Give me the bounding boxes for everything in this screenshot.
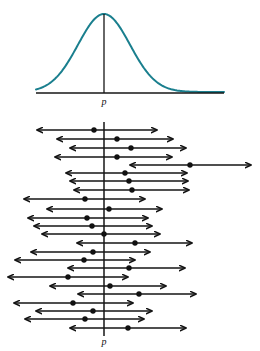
sample-proportion-dot <box>126 265 131 270</box>
parameter-label-top: p <box>101 96 107 107</box>
sample-proportion-dot <box>136 291 141 296</box>
normal-distribution-curve <box>36 14 224 92</box>
sample-proportion-dot <box>65 274 70 279</box>
sample-proportion-dot <box>90 308 95 313</box>
sample-proportion-dot <box>91 127 96 132</box>
sample-proportion-dot <box>114 154 119 159</box>
sample-proportion-dot <box>84 215 89 220</box>
interval-list <box>8 127 251 330</box>
sample-proportion-dot <box>125 325 130 330</box>
sample-proportion-dot <box>129 187 134 192</box>
sample-proportion-dot <box>106 206 111 211</box>
sample-proportion-dot <box>90 249 95 254</box>
sample-proportion-dot <box>114 136 119 141</box>
statistics-figure: p p <box>0 0 260 351</box>
sample-proportion-dot <box>82 196 87 201</box>
sample-proportion-dot <box>126 178 131 183</box>
parameter-label-bottom: p <box>101 336 107 347</box>
sample-proportion-dot <box>107 283 112 288</box>
sample-proportion-dot <box>187 162 192 167</box>
sample-proportion-dot <box>128 145 133 150</box>
sample-proportion-dot <box>122 170 127 175</box>
sample-proportion-dot <box>70 300 75 305</box>
top-panel-sampling-distribution: p <box>36 14 224 107</box>
bottom-panel-confidence-intervals: p <box>8 122 251 347</box>
sample-proportion-dot <box>81 257 86 262</box>
sample-proportion-dot <box>132 240 137 245</box>
sample-proportion-dot <box>82 316 87 321</box>
sample-proportion-dot <box>89 223 94 228</box>
